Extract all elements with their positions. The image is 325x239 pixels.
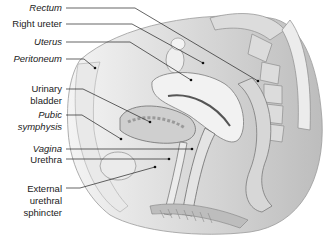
label-uterus: Uterus bbox=[34, 36, 62, 47]
label-right-ureter: Right ureter bbox=[12, 18, 62, 29]
label-vagina: Vagina bbox=[33, 143, 62, 154]
label-urinary-bladder-line1: Urinary bbox=[31, 83, 62, 94]
label-urinary-bladder-line2: bladder bbox=[30, 95, 62, 106]
anatomy-figure: Rectum Right ureter Uterus Peritoneum Ur… bbox=[0, 0, 325, 239]
pubic-symphysis bbox=[100, 152, 136, 180]
label-pubic-symphysis-line2: symphysis bbox=[18, 121, 62, 132]
label-rectum: Rectum bbox=[29, 2, 62, 13]
label-external-urethral-sphincter-line2: urethral bbox=[30, 195, 62, 206]
label-peritoneum: Peritoneum bbox=[13, 53, 62, 64]
label-external-urethral-sphincter-line3: sphincter bbox=[23, 207, 62, 218]
label-urethra: Urethra bbox=[30, 154, 62, 165]
label-pubic-symphysis-line1: Pubic bbox=[38, 109, 62, 120]
label-external-urethral-sphincter-line1: External bbox=[27, 183, 62, 194]
